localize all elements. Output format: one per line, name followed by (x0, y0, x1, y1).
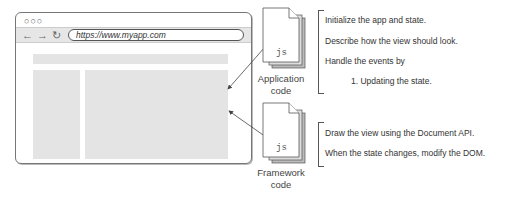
application-note: Describe how the view should look. (325, 36, 458, 46)
arrow-framework-to-view (229, 111, 266, 137)
framework-file-ext: js (276, 143, 287, 153)
label-line: Framework (251, 167, 311, 179)
framework-code-label: Framework code (251, 167, 311, 191)
framework-file-stack-icon (263, 103, 305, 163)
application-code-label: Application code (251, 73, 311, 97)
label-line: code (251, 179, 311, 191)
framework-note: When the state changes, modify the DOM. (325, 148, 485, 158)
application-file-stack-icon (263, 8, 305, 68)
application-note: Initialize the app and state. (325, 15, 426, 25)
label-line: code (251, 85, 311, 97)
application-file-ext: js (276, 48, 287, 58)
framework-notes-bracket (318, 122, 324, 167)
application-note: Handle the events by (325, 56, 405, 66)
application-note-step: 1. Updating the state. (351, 76, 432, 86)
label-line: Application (251, 73, 311, 85)
application-notes-bracket (318, 10, 324, 94)
framework-note: Draw the view using the Document API. (325, 128, 474, 138)
